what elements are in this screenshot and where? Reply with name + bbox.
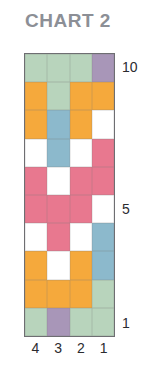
chart-grid-area xyxy=(24,53,115,337)
grid-cell-r9-c3 xyxy=(47,82,69,110)
grid-cell-r2-c4 xyxy=(25,280,47,308)
column-axis-label-3: 3 xyxy=(47,341,70,355)
grid-cell-r4-c2 xyxy=(70,223,92,251)
grid-cell-r5-c3 xyxy=(47,195,69,223)
chart-title: CHART 2 xyxy=(25,10,111,32)
grid-cell-r4-c1 xyxy=(92,223,114,251)
color-grid xyxy=(25,54,114,336)
grid-cell-r3-c1 xyxy=(92,251,114,279)
chart-container: CHART 2 1051 4321 xyxy=(0,0,162,369)
grid-cell-r1-c2 xyxy=(70,308,92,336)
grid-cell-r7-c2 xyxy=(70,139,92,167)
grid-cell-r2-c1 xyxy=(92,280,114,308)
grid-cell-r2-c2 xyxy=(70,280,92,308)
grid-cell-r4-c3 xyxy=(47,223,69,251)
grid-cell-r5-c2 xyxy=(70,195,92,223)
grid-cell-r7-c1 xyxy=(92,139,114,167)
grid-cell-r8-c1 xyxy=(92,110,114,138)
grid-cell-r9-c2 xyxy=(70,82,92,110)
grid-cell-r3-c2 xyxy=(70,251,92,279)
grid-cell-r6-c4 xyxy=(25,167,47,195)
grid-cell-r2-c3 xyxy=(47,280,69,308)
grid-cell-r8-c2 xyxy=(70,110,92,138)
grid-cell-r10-c1 xyxy=(92,54,114,82)
grid-cell-r6-c1 xyxy=(92,167,114,195)
row-axis-label-5: 5 xyxy=(122,202,130,216)
column-axis-label-2: 2 xyxy=(70,341,93,355)
column-axis-labels: 4321 xyxy=(24,341,115,355)
grid-cell-r10-c3 xyxy=(47,54,69,82)
grid-cell-r10-c4 xyxy=(25,54,47,82)
grid-cell-r7-c3 xyxy=(47,139,69,167)
column-axis-label-4: 4 xyxy=(24,341,47,355)
grid-cell-r9-c1 xyxy=(92,82,114,110)
grid-cell-r1-c1 xyxy=(92,308,114,336)
grid-cell-r3-c3 xyxy=(47,251,69,279)
grid-cell-r8-c4 xyxy=(25,110,47,138)
grid-cell-r1-c3 xyxy=(47,308,69,336)
grid-cell-r5-c4 xyxy=(25,195,47,223)
grid-cell-r7-c4 xyxy=(25,139,47,167)
grid-cell-r5-c1 xyxy=(92,195,114,223)
grid-cell-r3-c4 xyxy=(25,251,47,279)
grid-cell-r9-c4 xyxy=(25,82,47,110)
grid-cell-r6-c3 xyxy=(47,167,69,195)
column-axis-label-1: 1 xyxy=(92,341,115,355)
row-axis-label-10: 10 xyxy=(122,60,138,74)
grid-cell-r1-c4 xyxy=(25,308,47,336)
grid-cell-r4-c4 xyxy=(25,223,47,251)
grid-cell-r6-c2 xyxy=(70,167,92,195)
grid-cell-r8-c3 xyxy=(47,110,69,138)
grid-cell-r10-c2 xyxy=(70,54,92,82)
row-axis-label-1: 1 xyxy=(122,316,130,330)
